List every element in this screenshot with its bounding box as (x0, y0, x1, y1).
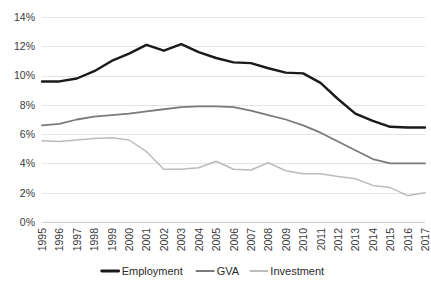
x-tick-label: 1995 (36, 228, 48, 252)
data-series (42, 44, 425, 196)
series-line-investment (42, 138, 425, 196)
y-tick-label: 2% (20, 187, 35, 199)
legend-label-investment[interactable]: Investment (270, 265, 324, 277)
x-tick-label: 2003 (175, 228, 187, 252)
x-tick-label: 2014 (367, 228, 379, 252)
x-tick-label: 1997 (71, 228, 83, 252)
x-tick-label: 1998 (88, 228, 100, 252)
y-tick-label: 4% (20, 157, 35, 169)
x-tick-label: 2012 (332, 228, 344, 252)
x-tick-label: 2006 (228, 228, 240, 252)
y-tick-label: 12% (14, 40, 35, 52)
y-tick-label: 6% (20, 128, 35, 140)
legend-label-gva[interactable]: GVA (217, 265, 240, 277)
x-tick-label: 2005 (210, 228, 222, 252)
x-tick-label: 2001 (140, 228, 152, 252)
x-tick-label: 2000 (123, 228, 135, 252)
x-tick-label: 2009 (280, 228, 292, 252)
y-tick-label: 0% (20, 216, 35, 228)
x-tick-label: 1996 (53, 228, 65, 252)
x-tick-label: 2002 (158, 228, 170, 252)
y-tick-label: 8% (20, 99, 35, 111)
x-tick-label: 2015 (384, 228, 396, 252)
x-tick-label: 1999 (106, 228, 118, 252)
x-tick-label: 2013 (349, 228, 361, 252)
y-axis-tick-labels: 0%2%4%6%8%10%12%14% (14, 11, 35, 228)
x-axis-tick-labels: 1995199619971998199920002001200220032004… (36, 228, 431, 252)
x-tick-label: 2017 (419, 228, 431, 252)
x-tick-label: 2004 (193, 228, 205, 252)
chart-legend[interactable]: EmploymentGVAInvestment (102, 265, 325, 277)
x-tick-label: 2016 (402, 228, 414, 252)
series-line-employment (42, 44, 425, 127)
legend-label-employment[interactable]: Employment (122, 265, 183, 277)
x-tick-label: 2008 (262, 228, 274, 252)
x-tick-label: 2007 (245, 228, 257, 252)
y-tick-label: 14% (14, 11, 35, 23)
x-tick-label: 2011 (315, 228, 327, 251)
chart-container: 0%2%4%6%8%10%12%14% 19951996199719981999… (0, 0, 431, 291)
x-tick-label: 2010 (297, 228, 309, 252)
line-chart: 0%2%4%6%8%10%12%14% 19951996199719981999… (0, 0, 431, 291)
y-tick-label: 10% (14, 69, 35, 81)
